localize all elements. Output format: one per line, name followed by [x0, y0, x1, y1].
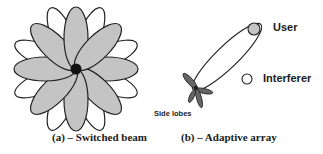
caption-switched-beam: (a) – Switched beam — [52, 131, 147, 143]
interferer-label: Interferer — [263, 72, 311, 84]
user-marker — [248, 23, 260, 35]
side-lobes-label: Side lobes — [154, 109, 192, 118]
side-lobes — [181, 72, 213, 109]
user-label: User — [273, 21, 297, 33]
antenna-hub — [71, 64, 82, 75]
adaptive-array-pattern — [181, 16, 268, 108]
caption-adaptive-array: (b) – Adaptive array — [181, 131, 277, 143]
switched-beam-pattern — [11, 4, 141, 134]
interferer-marker — [242, 74, 252, 84]
